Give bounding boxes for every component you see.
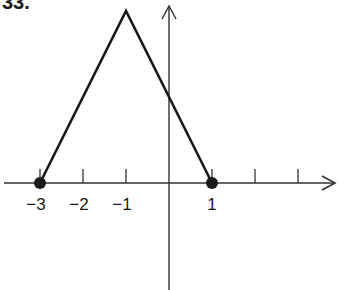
x-axis-tick-labels: −3−2−11 [26, 195, 216, 214]
filled-endpoint-dot [34, 177, 46, 189]
data-series [40, 11, 212, 183]
x-tick-label: 1 [207, 195, 216, 214]
x-tick-label: −3 [26, 195, 45, 214]
x-tick-label: −1 [112, 195, 131, 214]
filled-endpoint-dot [206, 177, 218, 189]
axes [4, 6, 335, 290]
triangle-graph-line [40, 11, 212, 183]
graph-plot: −3−2−11 [0, 0, 346, 290]
x-tick-label: −2 [69, 195, 88, 214]
